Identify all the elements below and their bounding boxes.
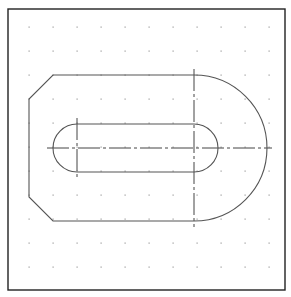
grid-dot (29, 243, 30, 244)
grid-dot (245, 195, 246, 196)
grid-dot (149, 219, 150, 220)
grid-dot (197, 123, 198, 124)
grid-dot (269, 75, 270, 76)
grid-dot (53, 27, 54, 28)
grid-dot (269, 267, 270, 268)
grid-dot (77, 99, 78, 100)
grid-dot (101, 27, 102, 28)
grid-dot (125, 51, 126, 52)
grid-dot (173, 99, 174, 100)
grid-dot (125, 267, 126, 268)
grid-dot (77, 219, 78, 220)
grid-dot (101, 51, 102, 52)
grid-dot (173, 219, 174, 220)
grid-dot (149, 99, 150, 100)
grid-dot (53, 123, 54, 124)
grid-dot (77, 27, 78, 28)
grid-dot (269, 51, 270, 52)
grid-dot (101, 219, 102, 220)
grid-dot (149, 195, 150, 196)
grid-dot (269, 195, 270, 196)
grid-dot (221, 75, 222, 76)
grid-dot (101, 195, 102, 196)
grid-dot (53, 267, 54, 268)
grid-dot (269, 243, 270, 244)
grid-dot (125, 99, 126, 100)
grid-dot (245, 243, 246, 244)
grid-dot (53, 243, 54, 244)
grid-dot (77, 243, 78, 244)
grid-dot (221, 51, 222, 52)
grid-dot (221, 195, 222, 196)
grid-dot (53, 195, 54, 196)
grid-dot (101, 99, 102, 100)
grid-dot (173, 267, 174, 268)
grid-dot (269, 219, 270, 220)
grid-dot (149, 51, 150, 52)
grid-dot (53, 219, 54, 220)
grid-dot (269, 99, 270, 100)
grid-dot (221, 171, 222, 172)
grid-dot (149, 243, 150, 244)
grid-dot (269, 123, 270, 124)
grid-dot (245, 27, 246, 28)
grid-dot (221, 267, 222, 268)
grid-dot (149, 27, 150, 28)
grid-dot (53, 51, 54, 52)
grid-dot (245, 219, 246, 220)
grid-dot (125, 243, 126, 244)
grid-dot (245, 267, 246, 268)
grid-dot (221, 99, 222, 100)
grid-dot (269, 171, 270, 172)
grid-dot (125, 219, 126, 220)
grid-dot (77, 267, 78, 268)
grid-dot (149, 267, 150, 268)
grid-dot (197, 27, 198, 28)
grid-dot (101, 147, 102, 148)
grid-dot (245, 123, 246, 124)
grid-dot (29, 27, 30, 28)
grid-dot (173, 51, 174, 52)
grid-dot (245, 171, 246, 172)
cad-drawing-canvas[interactable] (0, 0, 291, 297)
grid-dot (53, 99, 54, 100)
grid-dot (173, 243, 174, 244)
grid-dot (245, 51, 246, 52)
grid-dot (125, 195, 126, 196)
grid-dot (221, 243, 222, 244)
grid-dot (221, 27, 222, 28)
grid-dot (173, 195, 174, 196)
grid-dot (77, 51, 78, 52)
grid-dot (197, 51, 198, 52)
grid-dot (173, 27, 174, 28)
grid-dot (29, 219, 30, 220)
grid-dot (245, 75, 246, 76)
grid-dot (125, 27, 126, 28)
grid-dot (77, 195, 78, 196)
grid-dot (53, 171, 54, 172)
grid-dot (197, 195, 198, 196)
grid-dot (101, 243, 102, 244)
grid-dot (29, 51, 30, 52)
grid-dot (77, 147, 78, 148)
grid-dot (245, 99, 246, 100)
grid-dot (29, 75, 30, 76)
grid-dot (221, 219, 222, 220)
grid-dot (197, 99, 198, 100)
grid-dot (269, 27, 270, 28)
grid-dot (197, 219, 198, 220)
grid-dot (197, 243, 198, 244)
grid-dot (221, 123, 222, 124)
grid-dot (101, 267, 102, 268)
grid-dot (29, 267, 30, 268)
grid-dot (197, 267, 198, 268)
